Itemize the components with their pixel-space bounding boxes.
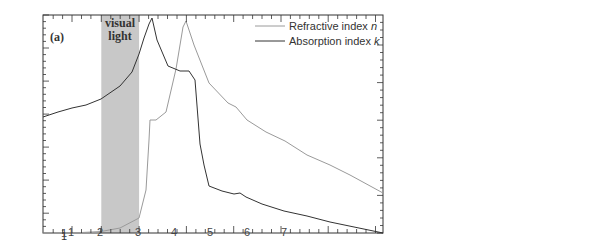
- refractive-index-curve: [43, 21, 383, 233]
- legend-label-n: Refractive index n: [289, 20, 377, 32]
- y-ticks-right-a: [377, 22, 383, 233]
- figure: visual light (a) Refractive index n Abso…: [0, 0, 593, 241]
- visual-light-band: [101, 15, 139, 233]
- visual-light-label-2: light: [108, 29, 131, 43]
- legend-label-k: Absorption index k: [289, 35, 380, 47]
- y-ticks-left-a: [43, 15, 49, 226]
- panel-a-label: (a): [50, 30, 64, 44]
- x-tick-label-a: 1: [61, 227, 67, 239]
- plot-frame-a: [43, 15, 383, 233]
- panel-a: visual light (a) Refractive index n Abso…: [43, 15, 383, 241]
- absorption-index-curve: [43, 18, 383, 233]
